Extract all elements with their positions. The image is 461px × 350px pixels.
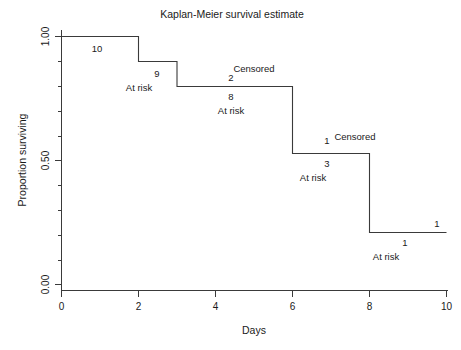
annotation-at-risk-3: 3 <box>324 158 329 169</box>
annotation-censored-count-1a: 1 <box>324 135 329 146</box>
x-tick-label-8: 8 <box>367 301 373 312</box>
chart-title: Kaplan-Meier survival estimate <box>160 8 304 20</box>
annotation-at-risk-9: 9 <box>154 68 159 79</box>
annotation-censored-count-1b: 1 <box>434 218 439 229</box>
x-tick-label-2: 2 <box>136 301 142 312</box>
annotation-censored-caption-1: Censored <box>233 63 274 74</box>
annotation-at-risk-caption-4: At risk <box>373 251 400 262</box>
annotation-at-risk-caption-3: At risk <box>300 172 327 183</box>
kaplan-meier-chart-figure: Kaplan-Meier survival estimate 1.00 0.50… <box>0 0 461 350</box>
annotation-at-risk-caption-2: At risk <box>218 105 245 116</box>
x-tick-label-6: 6 <box>290 301 296 312</box>
annotation-at-risk-8: 8 <box>228 91 233 102</box>
y-tick-label-0.50: 0.50 <box>40 150 51 170</box>
annotation-at-risk-10: 10 <box>92 43 103 54</box>
plot-canvas: Kaplan-Meier survival estimate 1.00 0.50… <box>0 0 461 350</box>
x-tick-label-0: 0 <box>59 301 65 312</box>
y-tick-label-0.00: 0.00 <box>40 274 51 294</box>
annotation-at-risk-1: 1 <box>402 237 407 248</box>
x-tick-label-4: 4 <box>213 301 219 312</box>
annotation-censored-count-2: 2 <box>228 72 233 83</box>
annotation-at-risk-caption-1: At risk <box>126 82 153 93</box>
y-axis-title: Proportion surviving <box>16 113 28 206</box>
y-tick-label-1.00: 1.00 <box>40 26 51 46</box>
x-tick-label-10: 10 <box>441 301 453 312</box>
annotation-censored-caption-2: Censored <box>334 131 375 142</box>
x-axis-title: Days <box>242 324 266 336</box>
